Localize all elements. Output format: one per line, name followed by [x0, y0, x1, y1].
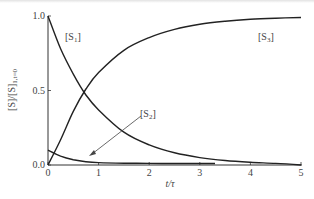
s3-label: [S3]: [258, 31, 274, 44]
x-tick-label: 2: [147, 167, 152, 178]
x-axis-title: t/τ: [165, 178, 175, 189]
y-axis-title: [S]/[S]1,t=0: [6, 69, 19, 111]
x-tick-label: 1: [96, 167, 101, 178]
x-tick-label: 0: [46, 167, 51, 178]
y-tick-label: 0.5: [33, 85, 46, 96]
x-tick-label: 5: [299, 167, 304, 178]
y-tick-label: 0.0: [33, 159, 46, 170]
x-tick-label: 4: [248, 167, 253, 178]
series-s2-curve: [48, 150, 215, 163]
y-tick-label: 1.0: [33, 10, 46, 21]
s2-label: [S2]: [140, 108, 156, 121]
kinetics-chart: 0123450.00.51.0 [S1] [S3] [S2] t/τ [S]/[…: [0, 0, 314, 199]
s1-label: [S1]: [65, 31, 81, 44]
arrowhead-icon: [89, 150, 96, 156]
s2-pointer-arrow: [92, 116, 141, 154]
x-tick-label: 3: [197, 167, 202, 178]
